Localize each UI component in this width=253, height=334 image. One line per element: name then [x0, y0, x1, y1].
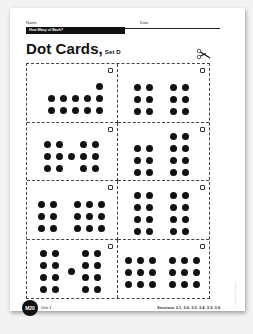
- dot: [146, 169, 153, 176]
- dot: [52, 274, 59, 281]
- dot: [146, 228, 153, 235]
- dot: [182, 228, 189, 235]
- dot: [80, 165, 87, 172]
- dot: [125, 281, 132, 288]
- dot: [149, 281, 156, 288]
- dot: [146, 145, 153, 152]
- dot: [56, 141, 63, 148]
- dot: [169, 269, 176, 276]
- dot: [134, 228, 141, 235]
- dot: [137, 281, 144, 288]
- dot: [96, 83, 103, 90]
- dot: [134, 84, 141, 91]
- set-marker-icon: [200, 244, 205, 249]
- dot: [134, 96, 141, 103]
- dot: [72, 107, 79, 114]
- dot: [40, 262, 47, 269]
- dot-card: [118, 181, 209, 240]
- dot: [52, 250, 59, 257]
- set-marker-icon: [200, 127, 205, 132]
- dot: [170, 216, 177, 223]
- dot-card: [118, 64, 209, 123]
- dot: [94, 274, 101, 281]
- title-main: Dot Cards,: [26, 40, 103, 57]
- dot: [44, 141, 51, 148]
- dot: [146, 157, 153, 164]
- dot: [96, 107, 103, 114]
- dot: [146, 216, 153, 223]
- dot: [169, 257, 176, 264]
- dot: [149, 257, 156, 264]
- dot: [170, 145, 177, 152]
- dot: [170, 108, 177, 115]
- page-number-badge: M20: [22, 300, 38, 316]
- dot: [86, 225, 93, 232]
- dot: [82, 250, 89, 257]
- dot: [50, 213, 57, 220]
- dot: [182, 84, 189, 91]
- dot: [181, 269, 188, 276]
- dot: [52, 262, 59, 269]
- dot: [170, 169, 177, 176]
- dot: [68, 268, 75, 275]
- set-marker-icon: [108, 185, 113, 190]
- dot: [94, 262, 101, 269]
- dot: [86, 213, 93, 220]
- dot: [193, 281, 200, 288]
- dot: [48, 95, 55, 102]
- dot: [193, 269, 200, 276]
- dot: [38, 201, 45, 208]
- dot: [86, 201, 93, 208]
- dot-card: [118, 240, 209, 299]
- copyright-text: © Pearson Education 2: [234, 238, 238, 308]
- dot: [170, 192, 177, 199]
- dot: [98, 225, 105, 232]
- dot: [170, 133, 177, 140]
- dot: [125, 257, 132, 264]
- dot: [181, 257, 188, 264]
- dot: [72, 95, 79, 102]
- scissors-icon: [195, 48, 211, 62]
- dot: [193, 257, 200, 264]
- dot: [182, 108, 189, 115]
- dot: [134, 145, 141, 152]
- dot: [40, 250, 47, 257]
- dot: [80, 141, 87, 148]
- dot: [137, 257, 144, 264]
- dot: [92, 141, 99, 148]
- dot-card: [27, 123, 118, 182]
- unit-label: Unit 1: [41, 305, 51, 310]
- dot: [98, 213, 105, 220]
- section-banner: How Many of Each?: [26, 27, 125, 34]
- dot: [48, 107, 55, 114]
- dot: [50, 225, 57, 232]
- dot: [60, 107, 67, 114]
- dot: [96, 95, 103, 102]
- set-marker-icon: [108, 244, 113, 249]
- dot: [74, 213, 81, 220]
- set-marker-icon: [200, 185, 205, 190]
- dot-card-grid: [26, 63, 210, 299]
- dot-card: [27, 240, 118, 299]
- dot: [56, 165, 63, 172]
- dot: [82, 274, 89, 281]
- set-marker-icon: [200, 68, 205, 73]
- dot: [182, 133, 189, 140]
- dot: [182, 157, 189, 164]
- dot: [170, 228, 177, 235]
- dot: [146, 96, 153, 103]
- dot: [170, 84, 177, 91]
- dot: [182, 204, 189, 211]
- set-marker-icon: [108, 68, 113, 73]
- dot: [182, 145, 189, 152]
- dot: [170, 157, 177, 164]
- dot: [44, 165, 51, 172]
- dot: [92, 165, 99, 172]
- dot: [52, 286, 59, 293]
- dot: [38, 225, 45, 232]
- name-label: Name: [26, 20, 37, 25]
- dot: [84, 107, 91, 114]
- dot: [40, 286, 47, 293]
- dot: [56, 153, 63, 160]
- dot: [84, 95, 91, 102]
